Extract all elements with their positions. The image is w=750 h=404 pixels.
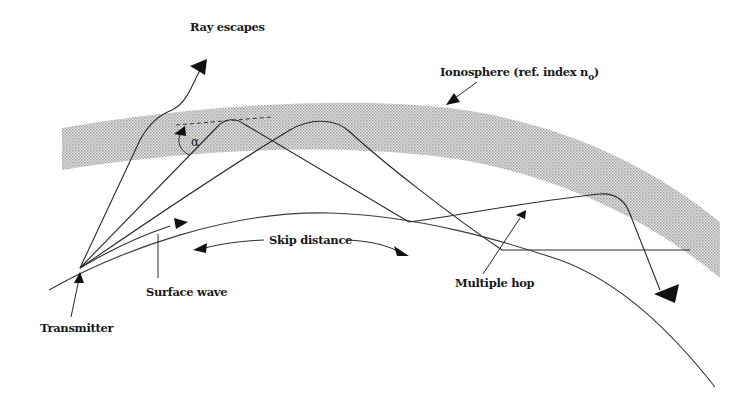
ionosphere-label-main: Ionosphere (ref. index n: [440, 65, 589, 79]
skip-distance-left-arrowhead-icon: [193, 243, 207, 253]
multiple-hop-arrowhead-icon: [654, 284, 679, 303]
ray-escapes-label: Ray escapes: [190, 20, 265, 34]
surface-wave-ray: [80, 226, 170, 268]
multiple-hop-pointer-arrowhead-icon: [516, 210, 526, 219]
skip-distance-right-line: [347, 240, 398, 251]
ionosphere-pointer: [455, 82, 477, 98]
surface-wave-label: Surface wave: [146, 285, 227, 299]
skip-distance-left-line: [205, 240, 264, 248]
ionosphere-label-close: ): [594, 65, 599, 79]
earth-surface: [49, 213, 715, 387]
ionosphere-layer: [62, 103, 720, 278]
ionosphere-pointer-arrowhead-icon: [446, 93, 460, 105]
escaping-ray: [80, 62, 205, 268]
alpha-label: α: [191, 135, 199, 149]
skip-distance-right-arrowhead-icon: [394, 246, 409, 256]
ionospheric-propagation-diagram: α Ray escapes Ionosphere (ref. index no)…: [0, 0, 750, 404]
multiple-hop-label: Multiple hop: [455, 276, 535, 290]
skip-distance-label: Skip distance: [269, 233, 352, 247]
ionosphere-label: Ionosphere (ref. index no): [440, 65, 599, 82]
transmitter-label: Transmitter: [40, 321, 115, 335]
transmitter-pointer: [71, 279, 79, 317]
surface-wave-arrowhead-icon: [174, 218, 188, 229]
